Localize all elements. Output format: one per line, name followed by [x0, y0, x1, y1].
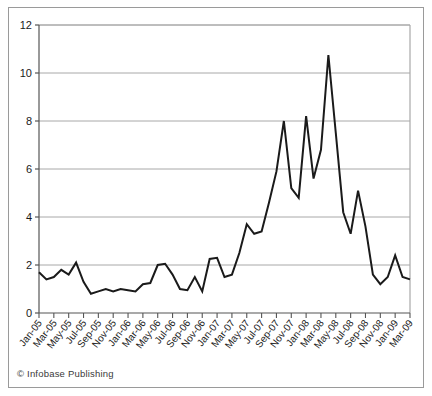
y-tick-label-0: 0 [26, 307, 32, 319]
credit-line: © Infobase Publishing [17, 368, 114, 379]
y-tick-label-10: 10 [20, 67, 32, 79]
y-tick-label-6: 6 [26, 163, 32, 175]
y-tick-label-12: 12 [20, 19, 32, 31]
y-tick-label-4: 4 [26, 211, 32, 223]
line-chart: 024681012Jan-05Mar-05May-05Jul-05Sep-05N… [0, 0, 432, 396]
chart-figure: 024681012Jan-05Mar-05May-05Jul-05Sep-05N… [0, 0, 432, 396]
y-tick-label-8: 8 [26, 115, 32, 127]
y-tick-label-2: 2 [26, 259, 32, 271]
